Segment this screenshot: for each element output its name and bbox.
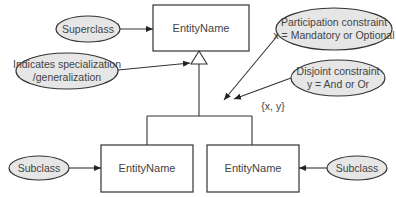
svg-text:Subclass: Subclass (336, 162, 379, 174)
subclass-entity-right: EntityName (207, 145, 299, 192)
svg-text:Participation constraint: Participation constraint (281, 16, 387, 28)
superclass-entity-label: EntityName (173, 22, 230, 34)
svg-text:Subclass: Subclass (18, 162, 61, 174)
superclass-entity: EntityName (153, 5, 249, 51)
subclass-right-label: EntityName (225, 162, 282, 174)
subclass-left-label: EntityName (119, 162, 176, 174)
svg-text:Superclass: Superclass (62, 23, 114, 35)
annotation-subclass-left: Subclass (9, 156, 101, 180)
arrow-icon (234, 78, 291, 99)
subclass-entity-left: EntityName (101, 145, 193, 192)
svg-text:y = And or Or: y = And or Or (307, 78, 370, 90)
annotation-subclass-right: Subclass (299, 156, 387, 180)
eer-diagram: EntityName {x, y} EntityName EntityName … (0, 0, 396, 197)
arrow-icon (118, 63, 190, 70)
svg-text:Indicates specialization: Indicates specialization (13, 58, 121, 70)
specialization-triangle-icon (191, 51, 207, 64)
svg-text:/generalization: /generalization (33, 71, 101, 83)
svg-text:Disjoint constraint: Disjoint constraint (297, 65, 380, 77)
annotation-superclass: Superclass (56, 16, 153, 42)
constraint-label: {x, y} (261, 100, 285, 112)
annotation-disjoint: Disjoint constraint y = And or Or (234, 60, 385, 99)
svg-text:x = Mandatory or Optional: x = Mandatory or Optional (273, 29, 394, 41)
annotation-specialization: Indicates specialization /generalization (13, 53, 190, 89)
